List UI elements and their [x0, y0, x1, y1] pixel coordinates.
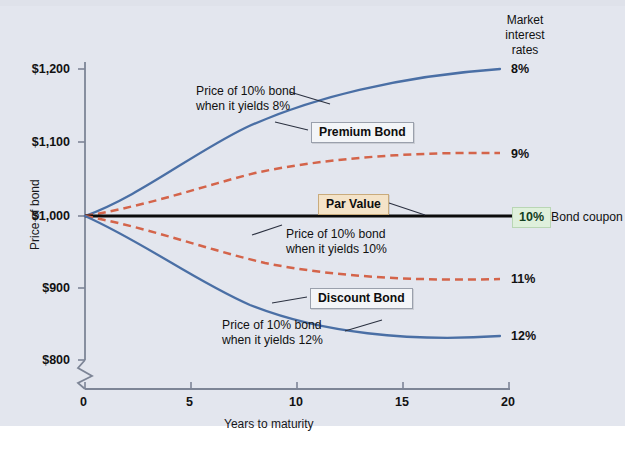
y-tick-label-1100: $1,100 — [2, 135, 70, 150]
bond-coupon-value-badge: 10% — [512, 207, 551, 228]
x-tick-label-20: 20 — [501, 395, 515, 410]
x-axis-title: Years to maturity — [224, 417, 314, 431]
rate-label-8pct: 8% — [511, 62, 529, 77]
leader-annot-10pct — [252, 225, 282, 235]
annotation-yield-8-line2: when it yields 8% — [196, 99, 296, 114]
annotation-yield-10-line1: Price of 10% bond — [286, 227, 387, 242]
leader-annot-12pct — [345, 320, 382, 331]
y-axis-ticks — [78, 69, 85, 360]
x-tick-label-0: 0 — [80, 395, 87, 410]
x-tick-label-5: 5 — [186, 395, 193, 410]
y-tick-label-900: $900 — [2, 281, 70, 296]
callout-premium-bond: Premium Bond — [311, 122, 414, 143]
leader-premium-bond — [275, 122, 308, 130]
x-tick-label-10: 10 — [289, 395, 303, 410]
rate-label-11pct: 11% — [511, 272, 535, 287]
rate-label-9pct: 9% — [511, 147, 529, 162]
rate-label-12pct: 12% — [511, 329, 536, 344]
annotation-yield-8-line1: Price of 10% bond — [196, 84, 296, 99]
callout-par-value: Par Value — [318, 194, 389, 215]
annotation-yield-10-line2: when it yields 10% — [286, 242, 387, 257]
annotation-yield-10: Price of 10% bond when it yields 10% — [286, 227, 387, 258]
x-tick-label-15: 15 — [395, 395, 409, 410]
y-axis-title: Price of bond — [28, 179, 42, 250]
leader-par-value — [389, 203, 425, 215]
annotation-yield-12-line2: when it yields 12% — [222, 333, 323, 348]
y-tick-label-1200: $1,200 — [2, 62, 70, 77]
legend-header: Market interest rates — [490, 13, 560, 58]
leader-discount-bond — [272, 297, 307, 303]
annotation-yield-12: Price of 10% bond when it yields 12% — [222, 318, 323, 349]
legend-header-line2: interest — [490, 28, 560, 43]
y-tick-label-800: $800 — [2, 353, 70, 368]
callout-discount-bond: Discount Bond — [310, 288, 413, 309]
annotation-yield-12-line1: Price of 10% bond — [222, 318, 323, 333]
bond-coupon-label: Bond coupon — [551, 210, 623, 224]
bond-price-chart-figure: $1,200 $1,100 $1,000 $900 $800 0 5 10 15… — [0, 0, 625, 450]
annotation-yield-8: Price of 10% bond when it yields 8% — [196, 84, 296, 115]
x-axis-ticks — [85, 382, 509, 389]
legend-header-line1: Market — [490, 13, 560, 28]
legend-header-line3: rates — [490, 43, 560, 58]
